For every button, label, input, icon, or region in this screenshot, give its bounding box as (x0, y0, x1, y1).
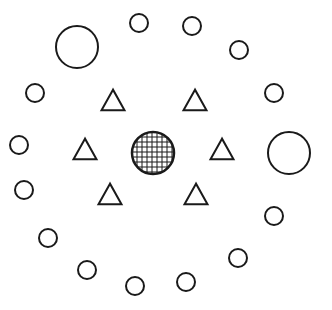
small-circle-icon (265, 84, 283, 102)
small-circle-icon (10, 136, 28, 154)
shape-arrangement-diagram (0, 0, 332, 310)
small-circle-icon (39, 229, 57, 247)
hatched-center-circle (132, 132, 174, 174)
small-circle-icon (15, 181, 33, 199)
triangle-icon (74, 139, 97, 160)
triangle-icon (185, 184, 208, 205)
triangle-icon (102, 90, 125, 111)
large-circle-icon (56, 26, 98, 68)
outer-ring-circles (10, 14, 310, 295)
triangle-icon (184, 90, 207, 111)
small-circle-icon (183, 17, 201, 35)
small-circle-icon (126, 277, 144, 295)
triangle-icon (99, 184, 122, 205)
small-circle-icon (26, 84, 44, 102)
small-circle-icon (265, 207, 283, 225)
large-circle-icon (268, 132, 310, 174)
small-circle-icon (177, 273, 195, 291)
triangle-icon (211, 139, 234, 160)
small-circle-icon (230, 41, 248, 59)
hatched-circle-icon (132, 132, 174, 174)
small-circle-icon (229, 249, 247, 267)
small-circle-icon (78, 261, 96, 279)
small-circle-icon (130, 14, 148, 32)
